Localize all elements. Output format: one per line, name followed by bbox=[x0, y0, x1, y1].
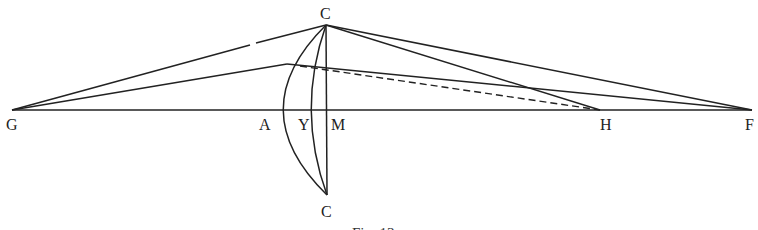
label-h: H bbox=[600, 116, 612, 133]
ray-g-to-c bbox=[12, 45, 250, 110]
label-f: F bbox=[745, 116, 754, 133]
label-c-top: C bbox=[320, 5, 331, 22]
ray-c-to-h bbox=[326, 25, 600, 110]
dashed-ray-to-h bbox=[300, 66, 600, 110]
ray-g-to-arc bbox=[12, 64, 287, 110]
label-c-bottom: C bbox=[321, 203, 332, 220]
chord-cc bbox=[326, 25, 327, 195]
lens-diagram: C G A Y M H F C Fig. 13 bbox=[0, 0, 758, 230]
label-y: Y bbox=[298, 116, 310, 133]
label-g: G bbox=[6, 116, 18, 133]
ray-arc-to-f bbox=[287, 64, 752, 110]
label-a: A bbox=[259, 116, 271, 133]
ray-c-to-f bbox=[326, 25, 752, 110]
figure-caption: Fig. 13 bbox=[352, 225, 395, 230]
ray-g-to-c-2 bbox=[256, 25, 326, 43]
label-m: M bbox=[331, 116, 345, 133]
